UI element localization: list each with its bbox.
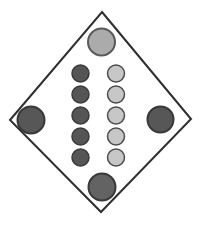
diamond-dots-figure: [0, 0, 199, 226]
light-column-dot-2: [108, 86, 125, 103]
light-column-dot-3: [108, 107, 125, 124]
light-column-dot-5: [108, 149, 125, 166]
left-vertex-dot: [18, 107, 45, 134]
light-column-dot-1: [108, 65, 125, 82]
figure-canvas: [0, 0, 199, 226]
bottom-vertex-dot: [89, 174, 116, 201]
dark-column-dot-1: [72, 65, 89, 82]
dark-column-dot-5: [72, 149, 89, 166]
top-vertex-dot: [88, 29, 115, 56]
light-column-dot-4: [108, 128, 125, 145]
dark-column-dot-3: [72, 107, 89, 124]
right-vertex-dot: [148, 107, 174, 133]
dark-column-dot-2: [72, 86, 89, 103]
dark-column-dot-4: [72, 128, 89, 145]
